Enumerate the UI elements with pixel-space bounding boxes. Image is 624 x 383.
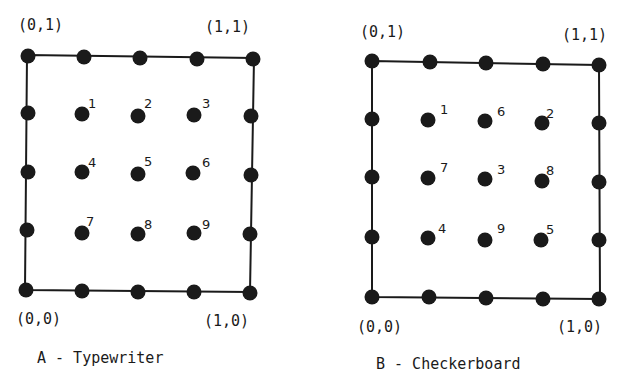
- point-label-b-7: 7: [440, 160, 448, 175]
- corner-label-a-bottom-left: (0,0): [16, 310, 61, 328]
- point-label-b-6: 6: [497, 104, 505, 119]
- point-label-b-5: 5: [546, 222, 554, 237]
- point-label-a-6: 6: [202, 155, 210, 170]
- point-label-a-2: 2: [144, 96, 152, 111]
- corner-label-a-bottom-right: (1,0): [204, 312, 249, 330]
- point-label-b-9: 9: [497, 221, 505, 236]
- corner-label-a-top-left: (0,1): [18, 16, 63, 34]
- point-label-b-2: 2: [546, 106, 554, 121]
- corner-label-b-top-left: (0,1): [360, 23, 405, 41]
- point-label-a-3: 3: [202, 96, 210, 111]
- diagram-b-checkerboard: 1 6 2 7 3 8 4 9 5 (0,1) (1,1) (0,0) (1,0…: [357, 23, 607, 373]
- point-label-a-8: 8: [144, 217, 152, 232]
- point-label-b-4: 4: [438, 221, 446, 236]
- point-label-a-9: 9: [202, 217, 210, 232]
- corner-label-b-bottom-right: (1,0): [557, 318, 602, 336]
- diagram-a-typewriter: 1 2 3 4 5 6 7 8 9 (0,1) (1,1) (0,0) (1,0…: [16, 16, 261, 367]
- point-label-b-3: 3: [497, 162, 505, 177]
- caption-a: A - Typewriter: [37, 349, 163, 367]
- caption-b: B - Checkerboard: [376, 355, 521, 373]
- point-label-a-4: 4: [88, 155, 96, 170]
- point-label-b-1: 1: [440, 102, 448, 117]
- point-label-b-8: 8: [546, 163, 554, 178]
- point-label-a-7: 7: [86, 214, 94, 229]
- corner-label-a-top-right: (1,1): [205, 18, 250, 36]
- corner-label-b-bottom-left: (0,0): [357, 318, 402, 336]
- corner-label-b-top-right: (1,1): [562, 26, 607, 44]
- point-label-a-1: 1: [88, 96, 96, 111]
- diagram-canvas: 1 2 3 4 5 6 7 8 9 (0,1) (1,1) (0,0) (1,0…: [0, 0, 624, 383]
- point-label-a-5: 5: [144, 154, 152, 169]
